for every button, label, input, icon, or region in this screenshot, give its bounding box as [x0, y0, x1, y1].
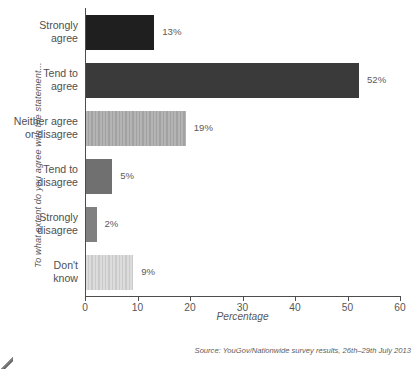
category-label-6: Don'tknow — [4, 259, 78, 284]
bar-value-label-3: 19% — [194, 123, 213, 133]
bar-6 — [86, 255, 133, 290]
x-tick-4 — [295, 296, 296, 301]
bar-3 — [86, 111, 186, 146]
x-axis-title: Percentage — [85, 311, 400, 322]
bar-value-label-6: 9% — [141, 267, 155, 277]
category-label-5: Stronglydisagree — [4, 211, 78, 236]
category-label-2: Tend toagree — [4, 67, 78, 92]
x-tick-0 — [85, 296, 86, 301]
category-label-3: Neither agreeor disagree — [4, 115, 78, 140]
chart-figure: To what extent do you agree with the sta… — [0, 0, 420, 369]
x-tick-3 — [243, 296, 244, 301]
category-label-4: Tend todisagree — [4, 163, 78, 188]
x-tick-5 — [348, 296, 349, 301]
category-label-1: Stronglyagree — [4, 19, 78, 44]
bar-value-label-5: 2% — [105, 219, 119, 229]
bar-5 — [86, 207, 97, 242]
bar-value-label-2: 52% — [367, 75, 386, 85]
bar-1 — [86, 15, 154, 50]
bar-2 — [86, 63, 359, 98]
x-tick-2 — [190, 296, 191, 301]
bar-value-label-1: 13% — [162, 27, 181, 37]
bar-4 — [86, 159, 112, 194]
source-note: Source: YouGov/Nationwide survey results… — [195, 346, 411, 355]
x-tick-1 — [138, 296, 139, 301]
x-tick-6 — [400, 296, 401, 301]
y-axis-line — [85, 8, 86, 296]
page-corner-artifact — [0, 355, 13, 369]
bar-value-label-4: 5% — [120, 171, 134, 181]
plot-area: 13%52%19%5%2%9% 0102030405060 — [85, 8, 400, 296]
